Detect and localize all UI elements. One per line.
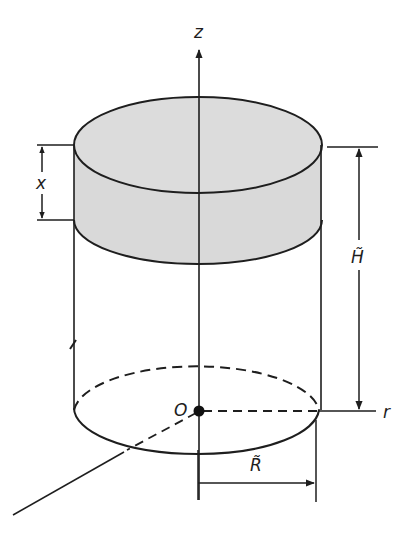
- radius-dimension: R̃: [198, 420, 316, 502]
- diagonal-axis-solid: [13, 452, 124, 515]
- x-dim-label: x: [35, 173, 47, 193]
- layer-thickness-dimension: x: [35, 145, 74, 220]
- h-dim-label: H̃: [351, 247, 364, 267]
- wall-break-mark: [70, 340, 76, 349]
- r-dim-label: R̃: [250, 455, 262, 475]
- height-dimension: H̃: [327, 147, 378, 409]
- origin-point: [194, 406, 205, 417]
- base-ellipse-back: [74, 366, 319, 410]
- z-axis-label: z: [193, 22, 204, 42]
- r-axis-label: r: [383, 402, 391, 422]
- shaded-layer: [74, 97, 322, 264]
- shaded-layer-top: [74, 97, 322, 193]
- cylinder-diagram: z r O x H̃ R̃: [0, 0, 411, 542]
- origin-label: O: [174, 400, 187, 420]
